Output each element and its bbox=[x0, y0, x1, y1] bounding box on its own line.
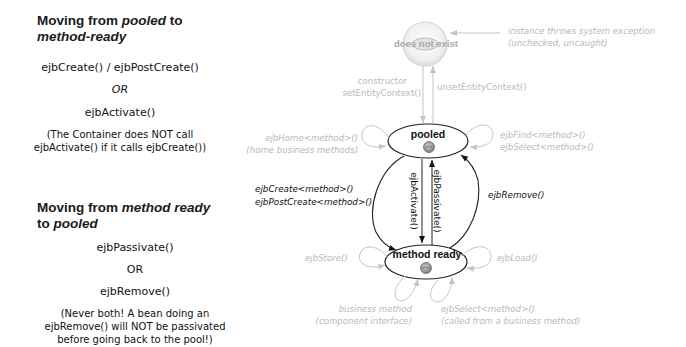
home-methods-loop bbox=[362, 126, 389, 147]
business-method-label: business method (component interface) bbox=[300, 303, 412, 327]
ejbselect-label: ejbSelect<method>() (called from a busin… bbox=[441, 303, 621, 327]
state-label-method-ready: method ready bbox=[382, 248, 472, 260]
lifecycle-diagram bbox=[0, 0, 686, 347]
remove-label: ejbRemove() bbox=[488, 189, 568, 202]
ejbstore-label: ejbStore() bbox=[305, 252, 365, 264]
create-arrow bbox=[372, 156, 404, 250]
find-select-label: ejbFind<method>() ejbSelect<method>() bbox=[500, 129, 620, 153]
business-method-loop bbox=[395, 276, 418, 301]
home-methods-label: ejbHome<method>() (home business methods… bbox=[245, 132, 358, 156]
unset-entity-context-label: unsetEntityContext() bbox=[437, 81, 557, 93]
bean-icon bbox=[421, 263, 432, 274]
activate-label: ejbActivate() bbox=[408, 161, 420, 241]
bean-icon bbox=[424, 142, 435, 153]
passivate-label: ejbPassivate() bbox=[431, 161, 443, 241]
create-label: ejbCreate<method>() ejbPostCreate<method… bbox=[255, 183, 375, 209]
remove-arrow bbox=[450, 155, 479, 248]
system-exception-label: instance throws system exception (unchec… bbox=[508, 25, 686, 49]
ejbload-label: ejbLoad() bbox=[497, 252, 557, 264]
state-label-pooled: pooled bbox=[398, 128, 458, 140]
find-select-loop bbox=[466, 125, 493, 147]
constructor-label: constructor setEntityContext() bbox=[335, 75, 421, 99]
ejbselect-loop bbox=[431, 277, 452, 302]
state-label-does-not-exist: does not exist bbox=[392, 38, 460, 49]
